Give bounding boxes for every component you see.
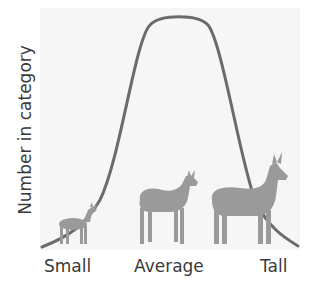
x-label-tall: Tall	[260, 256, 287, 276]
x-label-average: Average	[134, 256, 204, 276]
chart-svg	[0, 0, 315, 284]
average-deer-icon	[139, 170, 198, 244]
y-axis-label: Number in category	[15, 45, 35, 215]
x-label-small: Small	[44, 256, 91, 276]
